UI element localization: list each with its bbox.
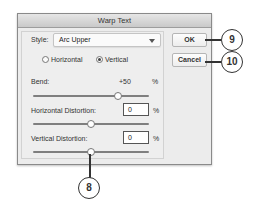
style-value: Arc Upper xyxy=(59,36,91,43)
horizontal-distortion-slider-thumb[interactable] xyxy=(87,120,95,128)
cancel-button[interactable]: Cancel xyxy=(172,53,207,67)
vertical-distortion-unit: % xyxy=(153,135,159,142)
warp-text-dialog: Warp Text Style: Arc Upper Horizontal Ve… xyxy=(17,13,212,165)
ok-button[interactable]: OK xyxy=(172,33,207,47)
chevron-down-icon xyxy=(149,39,155,43)
horizontal-distortion-input[interactable]: 0 xyxy=(123,103,149,116)
bend-label: Bend: xyxy=(31,78,49,85)
vertical-label: Vertical xyxy=(105,56,128,63)
bend-slider-thumb[interactable] xyxy=(114,92,122,100)
style-dropdown[interactable]: Arc Upper xyxy=(53,33,161,47)
dialog-title: Warp Text xyxy=(18,14,211,28)
horizontal-distortion-unit: % xyxy=(153,107,159,114)
vertical-radio[interactable] xyxy=(96,56,103,63)
callout-10-leader xyxy=(205,61,221,63)
bend-value: +50 xyxy=(119,78,131,85)
callout-10: 10 xyxy=(221,51,243,73)
callout-9: 9 xyxy=(221,29,243,51)
bend-unit: % xyxy=(152,78,158,85)
horizontal-radio[interactable] xyxy=(42,56,49,63)
horizontal-label: Horizontal xyxy=(51,56,83,63)
vertical-distortion-input[interactable]: 0 xyxy=(123,131,149,144)
callout-8-leader xyxy=(89,154,91,178)
callout-8: 8 xyxy=(78,177,100,199)
horizontal-distortion-label: Horizontal Distortion: xyxy=(31,107,96,114)
bend-slider-track[interactable] xyxy=(33,95,149,97)
style-label: Style: xyxy=(31,36,49,43)
vertical-distortion-label: Vertical Distortion: xyxy=(31,135,87,142)
callout-9-leader xyxy=(205,39,221,41)
